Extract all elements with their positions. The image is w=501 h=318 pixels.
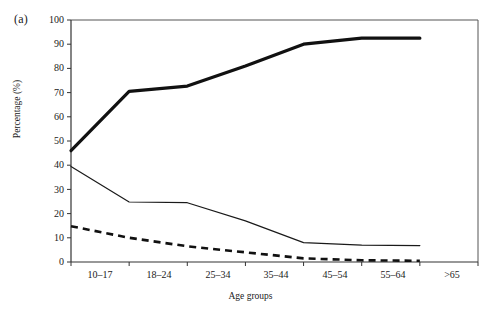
series-line-dashed	[71, 226, 420, 261]
series-line-thin-solid	[71, 166, 420, 245]
plot-area	[0, 0, 501, 318]
figure-panel-a: (a) Percentage (%) Age groups 100 90 80 …	[0, 0, 501, 318]
series-line-thick-solid	[71, 38, 420, 151]
